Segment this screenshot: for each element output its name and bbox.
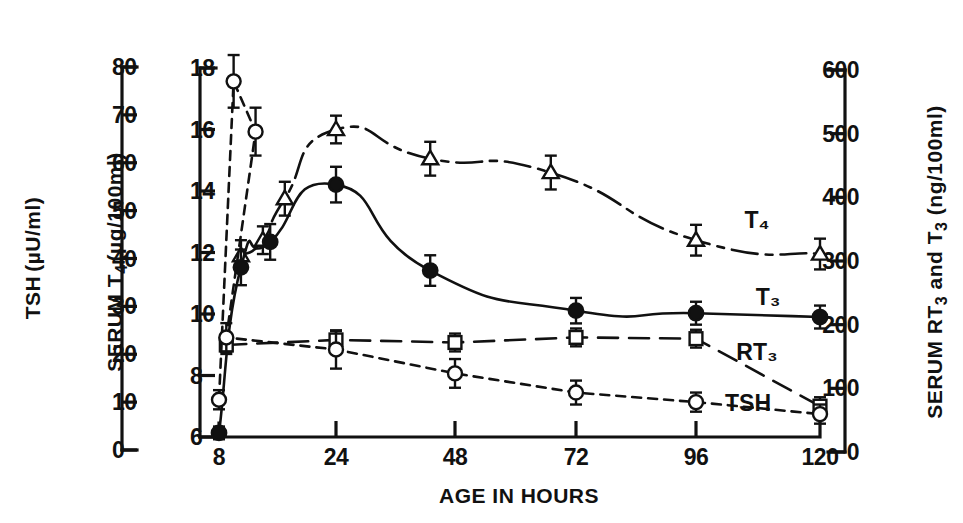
- series-line-TSH: [219, 81, 820, 414]
- marker-open-circle: [569, 386, 583, 400]
- marker-filled-circle: [689, 306, 703, 320]
- y-tick-label-y_right-1: 100: [822, 375, 859, 401]
- x-tick-label-group: 824487296120: [213, 444, 839, 470]
- y-tick-label-y_left-0: 6: [190, 424, 202, 450]
- y-tick-label-y_right-0: 0: [847, 439, 859, 465]
- tsh-axis-title-units: (µU/ml): [21, 197, 44, 272]
- datapoint-T3-3: [329, 177, 343, 191]
- marker-filled-circle: [569, 303, 583, 317]
- series-label-group: T₄T₃RT₃TSH: [725, 207, 780, 416]
- y-tick-label-y_left-3: 12: [190, 240, 215, 266]
- marker-open-circle: [212, 393, 226, 407]
- x-tick-label-1: 24: [324, 444, 349, 470]
- series-layer: [212, 55, 828, 440]
- datapoint-TSH-0: [212, 393, 226, 407]
- right-axis-title-mid: and T: [923, 231, 946, 296]
- datapoint-TSH-8: [813, 407, 827, 421]
- x-tick-label-2: 48: [443, 444, 468, 470]
- x-axis-title: AGE IN HOURS: [439, 484, 599, 507]
- datapoint-T3-6: [689, 306, 703, 320]
- y-tick-label-y_far_left-0: 0: [112, 437, 124, 463]
- right-axis-title-sub1: 3: [933, 296, 950, 305]
- datapoint-RT3-4: [690, 332, 703, 345]
- svg-text:TSH(µU/ml): TSH(µU/ml): [21, 197, 44, 320]
- x-axis-spine: [219, 423, 820, 437]
- y-tick-label-y_right-3: 300: [822, 248, 859, 274]
- marker-open-circle: [329, 342, 343, 356]
- marker-open-circle: [448, 366, 462, 380]
- svg-text:SERUM RT3 and T3 (ng/100ml): SERUM RT3 and T3 (ng/100ml): [923, 105, 950, 419]
- y-tick-label-y_right-6: 600: [822, 57, 859, 83]
- rt3-t3-axis-group: 0100200300400500600 SERUM RT3 and T3 (ng…: [822, 57, 950, 465]
- right-axis-title: SERUM RT3 and T3 (ng/100ml): [923, 105, 950, 419]
- datapoint-TSH-7: [689, 395, 703, 409]
- datapoint-T3-7: [813, 310, 827, 324]
- marker-open-circle: [249, 125, 263, 139]
- right-axis-title-sub2: 3: [933, 222, 950, 231]
- marker-open-circle: [219, 330, 233, 344]
- datapoint-T4-2: [277, 191, 293, 205]
- marker-filled-circle: [263, 235, 277, 249]
- datapoint-TSH-3: [219, 330, 233, 344]
- datapoint-TSH-2: [249, 125, 263, 139]
- t4-axis-title-main: SERUM T: [103, 274, 126, 372]
- chart-canvas: 01020304050607080 TSH(µU/ml) 68101214161…: [0, 0, 963, 523]
- marker-open-circle: [227, 74, 241, 88]
- y-tick-label-y_left-2: 10: [190, 301, 215, 327]
- y-tick-label-y_far_left-8: 80: [112, 54, 137, 80]
- datapoint-RT3-2: [449, 336, 462, 349]
- series-label-RT3: RT₃: [736, 339, 777, 365]
- y-tick-label-y_left-5: 16: [190, 117, 215, 143]
- tsh-axis-title: TSH(µU/ml): [21, 197, 44, 320]
- y-tick-label-y_left-6: 18: [190, 55, 215, 81]
- y-tick-label-y_left-1: 8: [190, 363, 203, 389]
- x-tick-label-4: 96: [684, 444, 709, 470]
- t4-axis-title-units: (µg/100ml): [103, 152, 126, 261]
- datapoint-TSH-5: [448, 366, 462, 380]
- x-tick-label-0: 8: [213, 444, 226, 470]
- series-TSH: [212, 55, 827, 424]
- datapoint-TSH-1: [227, 74, 241, 88]
- marker-open-square: [690, 332, 703, 345]
- t4-axis-title-sub: 4: [113, 264, 130, 273]
- y-tick-label-y_far_left-7: 70: [112, 102, 137, 128]
- marker-open-square: [570, 331, 583, 344]
- marker-filled-circle: [329, 177, 343, 191]
- series-line-T4: [241, 127, 820, 256]
- y-tick-label-y_right-5: 500: [822, 121, 859, 147]
- marker-open-circle: [689, 395, 703, 409]
- series-T4: [233, 116, 828, 271]
- figure-root: 01020304050607080 TSH(µU/ml) 68101214161…: [0, 0, 963, 523]
- datapoint-TSH-6: [569, 386, 583, 400]
- y-tick-label-y_far_left-1: 10: [112, 389, 137, 415]
- datapoint-T3-2: [263, 235, 277, 249]
- datapoint-RT3-3: [570, 331, 583, 344]
- y-tick-label-y_right-4: 400: [822, 184, 859, 210]
- x-axis-group: 824487296120 AGE IN HOURS: [213, 421, 839, 507]
- right-axis-title-units: (ng/100ml): [923, 105, 946, 221]
- marker-open-circle: [813, 407, 827, 421]
- x-tick-label-5: 120: [802, 444, 839, 470]
- series-label-TSH: TSH: [725, 390, 771, 416]
- datapoint-T3-0: [212, 426, 226, 440]
- marker-open-square: [449, 336, 462, 349]
- marker-filled-circle: [423, 263, 437, 277]
- x-tick-label-3: 72: [564, 444, 589, 470]
- t4-tick-label-group: 681012141618: [190, 55, 215, 450]
- marker-filled-circle: [813, 310, 827, 324]
- datapoint-TSH-4: [329, 342, 343, 356]
- marker-open-triangle: [277, 191, 293, 205]
- datapoint-T3-5: [569, 303, 583, 317]
- t4-axis-title: SERUM T4(µg/100ml): [103, 152, 130, 372]
- datapoint-T3-4: [423, 263, 437, 277]
- series-label-T4: T₄: [744, 207, 769, 233]
- x-tick-group: [336, 421, 696, 437]
- marker-filled-circle: [212, 426, 226, 440]
- y-tick-label-y_left-4: 14: [190, 178, 215, 204]
- series-label-T3: T₃: [756, 284, 781, 310]
- right-tick-label-group: 0100200300400500600: [822, 57, 859, 465]
- svg-text:SERUM T4(µg/100ml): SERUM T4(µg/100ml): [103, 152, 130, 372]
- tsh-axis-title-main: TSH: [21, 276, 44, 320]
- right-axis-title-main: SERUM RT: [923, 305, 946, 419]
